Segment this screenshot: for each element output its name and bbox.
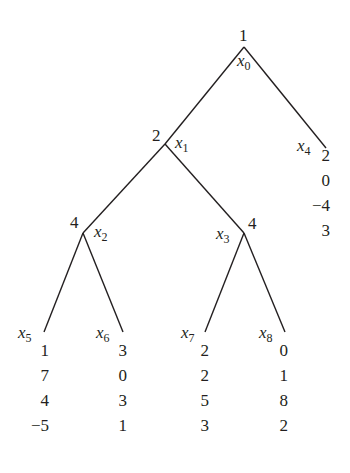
- edge-x1-x2: [83, 144, 165, 233]
- payoff-vector-x7: 2 2 5 3: [185, 338, 209, 438]
- payoff-vector-x4: 2 0 −4 3: [306, 143, 330, 243]
- payoff-value: 8: [264, 388, 288, 413]
- node-label-x2: x2: [94, 223, 108, 246]
- payoff-value: 0: [306, 168, 330, 193]
- payoff-value: 3: [185, 413, 209, 438]
- payoff-value: 3: [103, 338, 127, 363]
- payoff-vector-x5: 1 7 4 −5: [25, 338, 49, 438]
- node-label-x1: x1: [175, 134, 189, 157]
- payoff-value: 1: [25, 338, 49, 363]
- payoff-value: 2: [306, 143, 330, 168]
- edge-x1-x3: [165, 144, 244, 233]
- player-label-x3: 4: [248, 215, 257, 232]
- player-label-x0: 1: [239, 27, 248, 44]
- payoff-value: 1: [103, 413, 127, 438]
- player-label-x2: 4: [70, 214, 79, 231]
- edge-x3-x8: [244, 233, 285, 332]
- payoff-value: −4: [306, 193, 330, 218]
- payoff-vector-x6: 3 0 3 1: [103, 338, 127, 438]
- payoff-value: 4: [25, 388, 49, 413]
- payoff-value: 7: [25, 363, 49, 388]
- payoff-value: 5: [185, 388, 209, 413]
- node-label-x0: x0: [237, 52, 251, 75]
- game-tree-edges: [0, 0, 350, 473]
- edge-x0-x4: [244, 47, 326, 148]
- payoff-value: 3: [306, 218, 330, 243]
- payoff-value: 1: [264, 363, 288, 388]
- payoff-value: 2: [185, 363, 209, 388]
- edge-x2-x5: [44, 233, 83, 332]
- edge-x2-x6: [83, 233, 123, 332]
- payoff-value: −5: [25, 413, 49, 438]
- payoff-value: 2: [185, 338, 209, 363]
- edge-x0-x1: [165, 47, 244, 144]
- payoff-value: 0: [264, 338, 288, 363]
- node-label-x3: x3: [216, 225, 230, 248]
- payoff-value: 0: [103, 363, 127, 388]
- payoff-vector-x8: 0 1 8 2: [264, 338, 288, 438]
- player-label-x1: 2: [152, 127, 161, 144]
- payoff-value: 3: [103, 388, 127, 413]
- payoff-value: 2: [264, 413, 288, 438]
